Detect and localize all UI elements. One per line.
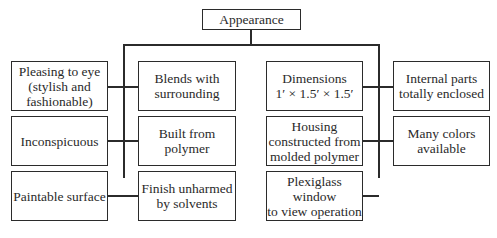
node-blends-with-surrounding: Blends with surrounding <box>138 61 236 111</box>
root-label: Appearance <box>219 12 283 27</box>
node-paintable-surface: Paintable surface <box>11 171 108 221</box>
node-finish-unharmed: Finish unharmed by solvents <box>138 171 236 221</box>
left-spine <box>123 44 125 178</box>
node-pleasing-to-eye: Pleasing to eye (stylish and fashionable… <box>11 61 108 111</box>
root-node-appearance: Appearance <box>202 9 301 30</box>
top-bus <box>123 44 379 46</box>
right-connector-2 <box>362 140 394 142</box>
node-label: Internal parts totally enclosed <box>399 71 484 101</box>
node-label: Blends with surrounding <box>154 71 219 101</box>
right-connector-3 <box>362 195 379 197</box>
left-connector-1 <box>107 86 139 88</box>
node-many-colors: Many colors available <box>393 116 490 166</box>
node-inconspicuous: Inconspicuous <box>11 116 108 166</box>
node-label: Dimensions 1′ × 1.5′ × 1.5′ <box>275 71 353 101</box>
node-label: Finish unharmed by solvents <box>141 181 232 211</box>
right-connector-1 <box>362 86 394 88</box>
node-label: Pleasing to eye (stylish and fashionable… <box>19 64 101 109</box>
node-housing-molded-polymer: Housing constructed from molded polymer <box>266 116 363 166</box>
node-dimensions: Dimensions 1′ × 1.5′ × 1.5′ <box>266 61 363 111</box>
node-label: Many colors available <box>408 126 476 156</box>
node-label: Paintable surface <box>13 189 106 204</box>
left-connector-3 <box>107 195 139 197</box>
node-plexiglass-window: Plexiglass window to view operation <box>266 171 363 221</box>
right-spine <box>378 44 380 178</box>
node-label: Built from polymer <box>159 126 216 156</box>
node-label: Inconspicuous <box>21 134 99 149</box>
node-built-from-polymer: Built from polymer <box>138 116 236 166</box>
node-internal-parts-enclosed: Internal parts totally enclosed <box>393 61 490 111</box>
root-stem <box>250 29 252 45</box>
node-label: Housing constructed from molded polymer <box>269 119 361 164</box>
node-label: Plexiglass window to view operation <box>267 174 362 219</box>
left-connector-2 <box>107 140 139 142</box>
